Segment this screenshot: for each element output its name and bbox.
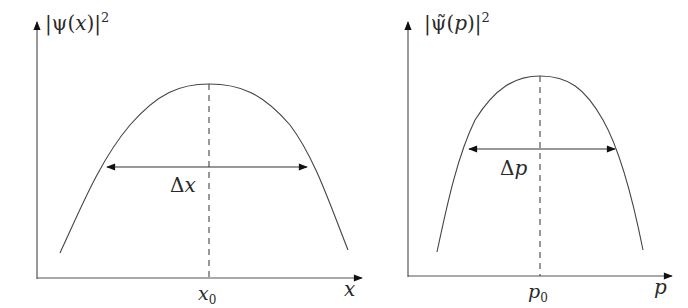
x-axis-label: x (344, 277, 355, 301)
uncertainty-diagram: |ψ(x)|2 Δx x0 x |ψ̃(p)|2 Δp p0 p (0, 0, 688, 308)
left-y-axis-label: |ψ(x)|2 (45, 10, 109, 36)
left-panel-position-space: |ψ(x)|2 Δx x0 x (37, 10, 362, 307)
delta-p-label: Δp (500, 156, 527, 180)
right-panel-momentum-space: |ψ̃(p)|2 Δp p0 p (408, 10, 672, 305)
left-probability-curve (60, 84, 348, 253)
p-axis-label: p (654, 275, 667, 299)
x0-tick-label: x0 (198, 282, 216, 307)
right-y-axis-label: |ψ̃(p)|2 (424, 10, 490, 36)
p0-tick-label: p0 (528, 280, 548, 305)
delta-x-label: Δx (170, 173, 196, 197)
